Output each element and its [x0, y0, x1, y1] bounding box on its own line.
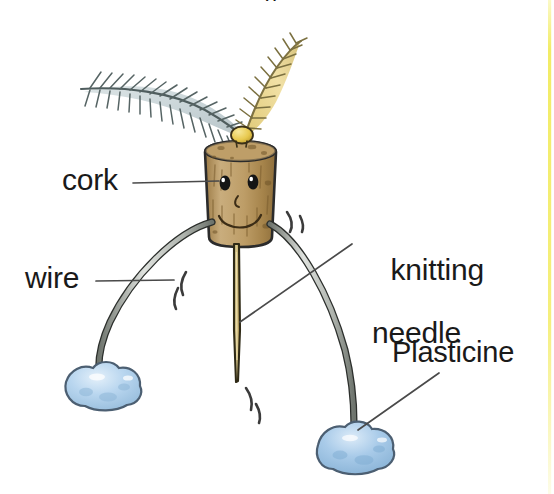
- label-knitting-needle-line1: knitting: [391, 253, 484, 286]
- plasticine-left: [65, 362, 141, 410]
- page-edge-rule: [548, 0, 551, 494]
- knitting-needle-part: [234, 244, 240, 382]
- feather-yellow-icon: [236, 33, 307, 141]
- plasticine-right: [317, 422, 394, 475]
- cork-part: [205, 127, 276, 248]
- label-wire: wire: [25, 262, 79, 294]
- label-knitting-needle: knitting needle: [358, 222, 484, 413]
- label-cork: cork: [62, 164, 118, 196]
- leader-wire: [96, 280, 174, 281]
- label-plasticine: Plasticine: [392, 337, 514, 368]
- diagram-canvas: g ,: [0, 0, 554, 494]
